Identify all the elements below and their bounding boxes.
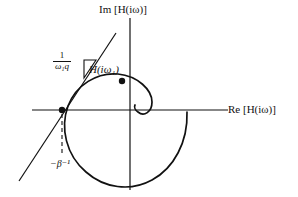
slope-numerator: 1 (53, 51, 71, 60)
imaginary-axis-label-text: Im [H(iω)] (99, 3, 147, 15)
slope-denominator: ω₁q (53, 62, 71, 71)
frequency-dot (119, 78, 125, 84)
real-axis-label: Re [H(iω)] (228, 104, 276, 115)
real-axis-label-text: Re [H(iω)] (228, 103, 276, 115)
frequency-point-label: H(iω₁) (89, 64, 119, 75)
nyquist-plot-figure: Im [H(iω)] Re [H(iω)] H(iω₁) −β⁻¹ 1 ω₁q (0, 0, 298, 197)
plot-canvas (0, 0, 298, 197)
slope-fraction-label: 1 ω₁q (53, 51, 71, 71)
intercept-value-label: −β⁻¹ (50, 159, 70, 169)
intercept-dot (59, 107, 65, 113)
nyquist-curve (65, 74, 187, 187)
intercept-value-label-text: −β⁻¹ (50, 158, 70, 169)
imaginary-axis-label: Im [H(iω)] (99, 4, 147, 15)
frequency-point-label-text: H(iω₁) (89, 63, 119, 75)
